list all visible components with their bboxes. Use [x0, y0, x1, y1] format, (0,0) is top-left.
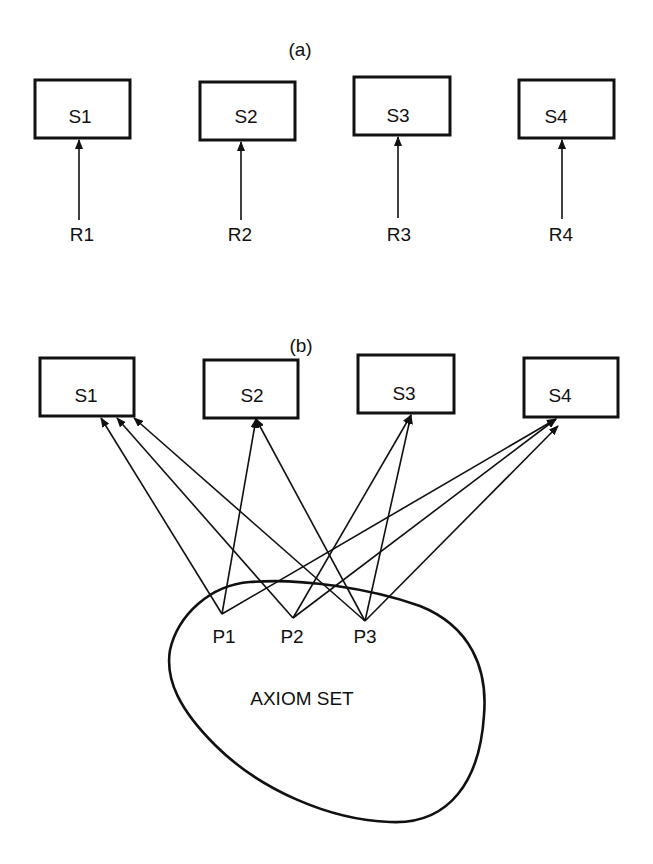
arrow-p3-s2	[256, 419, 365, 621]
source-label-r1: R1	[70, 224, 94, 245]
box-label: S3	[392, 383, 415, 404]
arrow-p3-s1	[134, 418, 365, 621]
box-label: S4	[548, 385, 572, 406]
panel-b: (b) S1 S2 S3 S4 P1	[40, 335, 618, 822]
premise-label-p1: P1	[212, 626, 235, 647]
box-label: S1	[68, 106, 91, 127]
arrow-p3-s4	[365, 426, 558, 621]
statement-box-s4: S4	[524, 358, 618, 417]
statement-box-s2: S2	[204, 360, 298, 418]
panel-a-caption: (a)	[288, 39, 311, 60]
panel-b-caption: (b)	[289, 335, 312, 356]
box-label: S4	[544, 106, 568, 127]
statement-box-s4: S4	[519, 80, 614, 138]
statement-box-s1: S1	[40, 358, 134, 416]
statement-box-s2: S2	[200, 82, 295, 140]
box-label: S2	[234, 106, 257, 127]
arrow-p3-s3	[365, 415, 411, 621]
premise-label-p3: P3	[353, 626, 376, 647]
source-label-r4: R4	[549, 224, 574, 245]
arrow-p2-s4	[293, 419, 556, 618]
source-label-r3: R3	[387, 224, 411, 245]
box-label: S3	[386, 105, 409, 126]
premise-label-p2: P2	[280, 626, 303, 647]
axiom-diagram: (a) S1 S2 S3 S4 R1 R2 R3 R4 (b) S1	[0, 0, 653, 864]
statement-box-s3: S3	[358, 355, 454, 413]
source-label-r2: R2	[228, 224, 252, 245]
statement-box-s3: S3	[354, 77, 450, 135]
arrow-p2-s1	[117, 418, 293, 618]
box-label: S2	[240, 385, 263, 406]
panel-a: (a) S1 S2 S3 S4 R1 R2 R3 R4	[35, 39, 614, 245]
statement-box-s1: S1	[35, 80, 130, 138]
axiom-set-label: AXIOM SET	[250, 688, 354, 709]
box-label: S1	[74, 385, 97, 406]
